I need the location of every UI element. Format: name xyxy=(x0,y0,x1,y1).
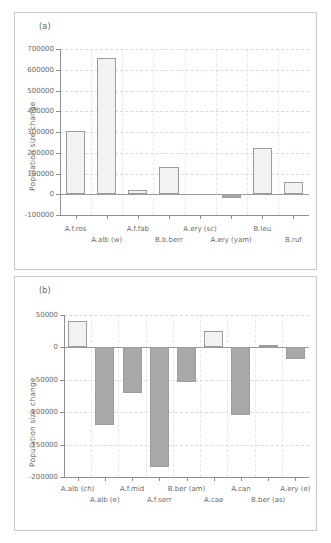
y-axis-tick-label: 300000 xyxy=(27,128,54,136)
x-axis-tick xyxy=(295,477,296,481)
vertical-gridline xyxy=(146,315,147,477)
panel-a-plot-area: -100000010000020000030000040000050000060… xyxy=(60,49,309,215)
x-axis-tick xyxy=(214,477,215,481)
x-axis-tick-label: A.f.ros xyxy=(65,225,87,233)
vertical-gridline xyxy=(200,315,201,477)
y-axis-tick-label: -50000 xyxy=(33,376,58,384)
panel-b: (b) Population size change -200000-15000… xyxy=(14,276,317,531)
y-axis-tick-label: 0 xyxy=(54,343,58,351)
y-axis-line xyxy=(60,49,61,215)
x-axis-tick-label: B.ber (as) xyxy=(251,496,285,504)
bar xyxy=(284,182,303,194)
y-axis-tick-label: 50000 xyxy=(36,311,58,319)
x-axis-tick xyxy=(231,215,232,219)
bar xyxy=(231,347,250,414)
x-axis-tick xyxy=(105,477,106,481)
bar xyxy=(222,194,241,198)
x-axis-tick xyxy=(76,215,77,219)
y-axis-tick-label: 0 xyxy=(50,190,54,198)
x-axis-tick-label: A.f.fab xyxy=(127,225,149,233)
x-axis-tick-label: A.cae xyxy=(204,496,223,504)
x-axis-tick xyxy=(187,477,188,481)
bar xyxy=(123,347,142,392)
x-axis-tick-label: B.leu xyxy=(253,225,271,233)
bar xyxy=(95,347,114,425)
x-axis-tick xyxy=(132,477,133,481)
vertical-gridline xyxy=(227,315,228,477)
y-axis-tick-label: 100000 xyxy=(27,170,54,178)
y-axis-tick-label: 600000 xyxy=(27,66,54,74)
x-axis-tick xyxy=(107,215,108,219)
bar xyxy=(259,345,278,347)
bar xyxy=(177,347,196,382)
bar xyxy=(253,148,272,194)
bar xyxy=(128,190,147,194)
x-axis-tick xyxy=(241,477,242,481)
panel-a-label: (a) xyxy=(39,22,51,31)
bar xyxy=(150,347,169,467)
y-axis-tick-label: 700000 xyxy=(27,45,54,53)
x-axis-tick-label: A.ery (e) xyxy=(280,485,310,493)
x-axis-tick-label: B.ruf xyxy=(285,236,302,244)
y-axis-tick-label: 400000 xyxy=(27,107,54,115)
x-axis-tick xyxy=(159,477,160,481)
y-axis-line xyxy=(64,315,65,477)
figure-root: (a) Population size change -100000010000… xyxy=(0,0,331,543)
vertical-gridline xyxy=(173,315,174,477)
bar xyxy=(97,58,116,194)
x-axis-tick-label: A.ery (sc) xyxy=(183,225,216,233)
panel-b-y-axis-label: Population size change xyxy=(28,377,37,467)
x-axis-tick xyxy=(262,215,263,219)
x-axis-tick-label: A.f.mid xyxy=(120,485,144,493)
vertical-gridline xyxy=(282,315,283,477)
y-axis-tick-label: 200000 xyxy=(27,149,54,157)
gridline xyxy=(64,445,309,446)
x-axis-tick-label: B.ber (am) xyxy=(168,485,205,493)
x-axis-tick xyxy=(293,215,294,219)
y-axis-tick-label: -200000 xyxy=(29,473,58,481)
x-axis-tick xyxy=(268,477,269,481)
x-axis-tick xyxy=(78,477,79,481)
bar xyxy=(159,167,178,194)
bar xyxy=(204,331,223,348)
vertical-gridline xyxy=(255,315,256,477)
x-axis-tick xyxy=(138,215,139,219)
x-axis-tick-label: A.ery (yam) xyxy=(211,236,252,244)
panel-a: (a) Population size change -100000010000… xyxy=(14,12,317,270)
x-axis-tick xyxy=(169,215,170,219)
zero-line xyxy=(60,194,309,195)
y-axis-tick-label: -100000 xyxy=(25,211,54,219)
x-axis-tick-label: A.alb (e) xyxy=(90,496,120,504)
bar xyxy=(68,321,87,348)
panel-b-label: (b) xyxy=(39,286,51,295)
bar xyxy=(66,131,85,194)
x-axis-tick xyxy=(200,215,201,219)
x-axis-tick-label: A.alb (ch) xyxy=(61,485,95,493)
x-axis-tick-label: B.b.berr xyxy=(155,236,183,244)
panel-b-plot-area: -200000-150000-100000-50000050000A.alb (… xyxy=(64,315,309,477)
y-axis-tick-label: 500000 xyxy=(27,87,54,95)
x-axis-line xyxy=(60,215,309,216)
y-axis-tick-label: -150000 xyxy=(29,441,58,449)
y-axis-tick-label: -100000 xyxy=(29,408,58,416)
bar xyxy=(286,347,305,359)
gridline xyxy=(60,49,309,50)
x-axis-tick-label: A.alb (w) xyxy=(91,236,122,244)
x-axis-tick-label: A.f.serr xyxy=(147,496,172,504)
vertical-gridline xyxy=(91,315,92,477)
gridline xyxy=(64,315,309,316)
x-axis-tick-label: A.can xyxy=(231,485,250,493)
vertical-gridline xyxy=(118,315,119,477)
